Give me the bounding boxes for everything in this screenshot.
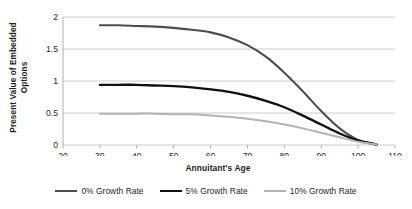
x-tick-label-70: 70 [243, 151, 253, 157]
legend-item-10-growth-rate[interactable]: 10% Growth Rate [264, 186, 357, 196]
chart-legend: 0% Growth Rate5% Growth Rate10% Growth R… [0, 186, 412, 196]
series-line-10-growth-rate [100, 114, 377, 145]
y-tick-label-0_5: 0.5 [46, 108, 58, 118]
x-axis-title: Annuitant's Age [38, 163, 398, 173]
y-tick-label-2: 2 [53, 12, 58, 22]
legend-swatch-icon-0-growth-rate [55, 190, 77, 192]
x-tick-label-80: 80 [280, 151, 290, 157]
y-axis-title: Present Value of Embedded Options [0, 0, 38, 155]
legend-label-10-growth-rate: 10% Growth Rate [290, 186, 357, 196]
legend-item-0-growth-rate[interactable]: 0% Growth Rate [55, 186, 143, 196]
x-axis-tick-labels: 2030405060708090100110 [58, 151, 402, 157]
x-tick-label-100: 100 [351, 151, 366, 157]
grid-lines [63, 17, 395, 145]
y-tick-label-0: 0 [53, 140, 58, 150]
y-axis-title-line-1: Present Value of Embedded [9, 22, 20, 132]
x-tick-label-60: 60 [206, 151, 216, 157]
plot-area: 00.511.52 2030405060708090100110 [38, 8, 412, 156]
x-tick-label-90: 90 [316, 151, 326, 157]
x-tick-label-110: 110 [388, 151, 402, 157]
x-tick-label-50: 50 [169, 151, 179, 157]
legend-label-0-growth-rate: 0% Growth Rate [81, 186, 143, 196]
y-tick-label-1: 1 [53, 76, 58, 86]
x-tick-label-30: 30 [95, 151, 105, 157]
y-tick-label-1_5: 1.5 [46, 44, 58, 54]
data-series-lines [100, 25, 377, 144]
y-axis-title-line-2: Options [19, 22, 30, 132]
x-tick-label-20: 20 [58, 151, 68, 157]
legend-swatch-icon-5-growth-rate [160, 190, 182, 193]
y-axis-tick-labels: 00.511.52 [46, 12, 58, 150]
plot-svg: 00.511.52 2030405060708090100110 [38, 8, 412, 156]
chart-container: Present Value of Embedded Options 00.511… [0, 0, 412, 209]
x-tick-label-40: 40 [132, 151, 142, 157]
legend-swatch-icon-10-growth-rate [264, 190, 286, 192]
legend-label-5-growth-rate: 5% Growth Rate [186, 186, 248, 196]
x-axis-ticks [63, 145, 395, 149]
legend-item-5-growth-rate[interactable]: 5% Growth Rate [160, 186, 248, 196]
